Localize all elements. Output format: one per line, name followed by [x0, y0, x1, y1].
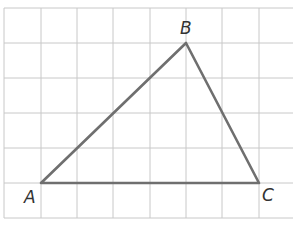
- vertex-label-c: C: [262, 185, 274, 205]
- vertex-label-b: B: [180, 18, 192, 38]
- vertex-label-a: A: [23, 187, 36, 207]
- grid: [4, 8, 293, 218]
- triangle-diagram: A B C: [0, 0, 293, 231]
